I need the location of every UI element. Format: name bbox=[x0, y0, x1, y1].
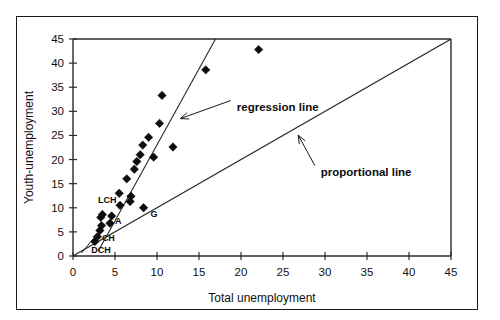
annotation-arrow bbox=[180, 101, 231, 119]
x-tick-label: 45 bbox=[445, 266, 458, 278]
x-tick-label: 30 bbox=[319, 266, 332, 278]
annotation-arrow bbox=[298, 135, 315, 165]
data-point-marker bbox=[139, 141, 147, 149]
point-label-G: G bbox=[151, 209, 158, 219]
x-tick-label: 20 bbox=[235, 266, 248, 278]
x-tick-label: 0 bbox=[70, 266, 76, 278]
data-point-marker bbox=[144, 133, 152, 141]
data-point-marker bbox=[155, 119, 163, 127]
data-point-marker bbox=[116, 201, 124, 209]
point-label-DCH: DCH bbox=[91, 245, 111, 255]
data-point-marker bbox=[254, 45, 262, 53]
y-tick-label: 25 bbox=[51, 129, 64, 141]
data-point-marker bbox=[106, 219, 114, 227]
data-point-marker bbox=[169, 143, 177, 151]
x-axis-title: Total unemployment bbox=[208, 291, 316, 305]
y-tick-label: 5 bbox=[58, 226, 64, 238]
data-point-marker bbox=[202, 66, 210, 74]
point-label-A: A bbox=[115, 216, 122, 226]
y-tick-label: 20 bbox=[51, 154, 64, 166]
data-point-marker bbox=[123, 175, 131, 183]
x-tick-label: 15 bbox=[193, 266, 206, 278]
scatter-chart: 051015202530354045051015202530354045Tota… bbox=[17, 17, 477, 309]
data-point-marker bbox=[130, 165, 138, 173]
x-tick-label: 5 bbox=[112, 266, 118, 278]
y-tick-label: 35 bbox=[51, 81, 64, 93]
point-label-LCH: LCH bbox=[98, 195, 117, 205]
y-tick-label: 10 bbox=[51, 202, 64, 214]
data-point-marker bbox=[158, 91, 166, 99]
figure-frame: 051015202530354045051015202530354045Tota… bbox=[16, 16, 478, 310]
data-point-marker bbox=[139, 204, 147, 212]
annotation-regression-line: regression line bbox=[237, 101, 319, 113]
annotation-proportional-line: proportional line bbox=[321, 166, 412, 178]
y-tick-label: 30 bbox=[51, 105, 64, 117]
y-tick-label: 0 bbox=[58, 250, 64, 262]
x-tick-label: 35 bbox=[361, 266, 374, 278]
x-tick-label: 10 bbox=[151, 266, 164, 278]
x-tick-label: 40 bbox=[403, 266, 416, 278]
line-proportional-line bbox=[73, 39, 451, 256]
y-tick-label: 45 bbox=[51, 33, 64, 45]
y-tick-label: 15 bbox=[51, 178, 64, 190]
y-axis-title: Youth-unemployment bbox=[22, 90, 36, 204]
y-tick-label: 40 bbox=[51, 57, 64, 69]
data-point-marker bbox=[149, 153, 157, 161]
point-label-CH: CH bbox=[102, 233, 115, 243]
x-tick-label: 25 bbox=[277, 266, 290, 278]
